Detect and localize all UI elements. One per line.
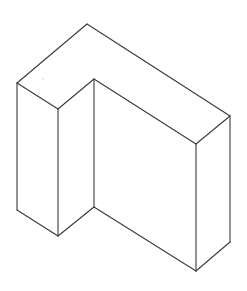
left-side-face	[17, 83, 58, 236]
diagram-canvas	[0, 0, 247, 291]
l-block-drawing	[0, 0, 247, 291]
scan-speck	[42, 78, 43, 79]
